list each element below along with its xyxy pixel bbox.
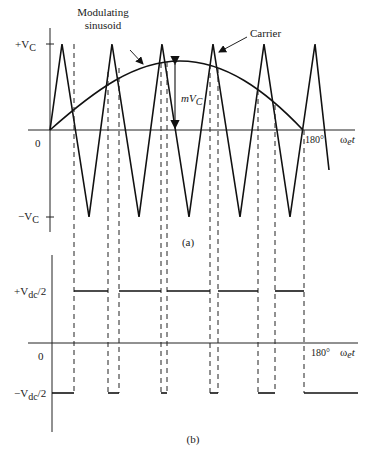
panel-a-180-label: 180° [305, 134, 324, 145]
panel-a-caption: (a) [182, 236, 195, 249]
modulating-label-line2: sinusoid [85, 19, 122, 31]
panel-b-180-label: 180° [311, 347, 330, 358]
pos-vc-label: +VC [15, 38, 36, 53]
carrier-pointer-arrow-icon [219, 37, 247, 52]
pwm-output-waveform [52, 291, 358, 393]
modulating-pointer-arrow-icon [130, 50, 143, 64]
panel-a: Modulating sinusoid Carrier mVC +VC −VC … [15, 6, 356, 249]
pwm-diagram: Modulating sinusoid Carrier mVC +VC −VC … [0, 0, 376, 460]
neg-vdc-label: −Vdc/2 [14, 387, 46, 402]
panel-a-x-axis-label: ωet [340, 133, 356, 147]
modulating-sinusoid-curve [50, 61, 303, 130]
neg-vc-label: −VC [18, 210, 39, 225]
carrier-label: Carrier [250, 27, 281, 39]
panel-b: +Vdc/2 −Vdc/2 0 180° ωet (b) [14, 255, 358, 446]
panel-b-zero-label: 0 [38, 350, 44, 362]
panel-a-zero-label: 0 [35, 137, 41, 149]
modulating-label-line1: Modulating [77, 6, 129, 18]
panel-b-x-axis-label: ωet [340, 346, 356, 360]
amplitude-label: mVC [181, 92, 203, 107]
panel-b-caption: (b) [187, 433, 200, 446]
pos-vdc-label: +Vdc/2 [14, 285, 46, 300]
